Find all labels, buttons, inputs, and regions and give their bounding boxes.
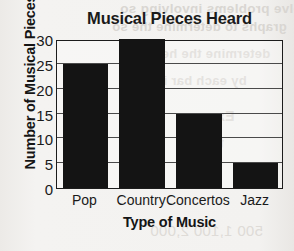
y-axis-tick-labels: 302520151050	[20, 40, 53, 189]
bar-pop	[63, 64, 108, 188]
x-axis-tick-labels: PopCountryConcertosJazz	[56, 193, 283, 211]
x-tick-jazz: Jazz	[218, 193, 291, 208]
bar-country	[119, 39, 164, 188]
y-tick-10: 10	[25, 132, 53, 147]
y-tick-20: 20	[25, 83, 53, 98]
y-tick-25: 25	[25, 58, 53, 73]
bar-jazz	[233, 163, 278, 188]
plot-area	[56, 40, 283, 189]
bar-chart: Musical Pieces Heard Number of Musical P…	[0, 0, 294, 251]
chart-title: Musical Pieces Heard	[56, 9, 283, 28]
y-tick-5: 5	[25, 157, 53, 172]
y-tick-30: 30	[25, 33, 53, 48]
x-axis-label: Type of Music	[56, 214, 283, 230]
y-tick-15: 15	[25, 108, 53, 123]
bar-concertos	[176, 114, 221, 189]
